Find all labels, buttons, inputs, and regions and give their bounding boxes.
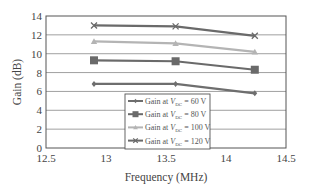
y-axis-ticks: 02468101214: [31, 10, 43, 154]
y-tick-label: 2: [37, 123, 43, 135]
series-x: [91, 22, 258, 38]
square-marker-icon: [90, 56, 98, 64]
y-tick-label: 8: [37, 67, 43, 79]
y-axis-title: Gain (dB): [11, 59, 24, 105]
x-tick-label: 14.5: [276, 152, 296, 164]
x-tick-label: 14: [221, 152, 233, 164]
data-series: [90, 22, 259, 96]
square-marker-icon: [133, 111, 139, 117]
diamond-marker-icon: [173, 81, 178, 87]
series-square: [90, 56, 259, 73]
series-triangle: [91, 38, 258, 54]
x-axis-title: Frequency (MHz): [125, 171, 208, 184]
y-tick-label: 6: [37, 85, 43, 97]
y-tick-label: 14: [31, 10, 43, 22]
y-tick-label: 10: [31, 48, 43, 60]
gain-vs-frequency-chart: 02468101214 12.51313.51414.5 Gain at VDC…: [0, 0, 311, 190]
square-marker-icon: [172, 57, 180, 65]
y-tick-label: 12: [31, 29, 42, 41]
legend: Gain at VDC = 60 VGain at VDC = 80 VGain…: [125, 94, 211, 149]
square-marker-icon: [251, 66, 259, 74]
x-tick-label: 12.5: [36, 152, 56, 164]
x-tick-label: 13.5: [156, 152, 176, 164]
diamond-marker-icon: [92, 81, 97, 87]
y-tick-label: 4: [37, 104, 43, 116]
x-axis-ticks: 12.51313.51414.5: [36, 152, 296, 164]
x-tick-label: 13: [101, 152, 113, 164]
